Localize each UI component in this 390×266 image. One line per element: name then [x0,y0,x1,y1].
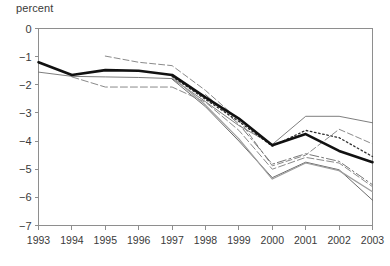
y-tick-label: −2 [19,79,32,91]
x-tick-label: 1999 [227,234,251,246]
y-tick-label: 0 [25,23,31,35]
y-tick-label: −3 [19,107,32,119]
series-line-projection-vintage-c [72,77,373,187]
x-tick-label: 2001 [294,234,318,246]
y-tick-label: −1 [19,51,32,63]
x-tick-label: 1997 [160,234,184,246]
x-tick-label: 1995 [94,234,118,246]
x-tick-label: 1994 [60,234,84,246]
y-tick-label: −6 [19,191,32,203]
chart-canvas: 0−1−2−3−4−5−6−7 199319941995199619971998… [0,0,390,266]
x-tick-label: 2000 [261,234,285,246]
y-tick-label: −7 [19,220,32,232]
x-tick-label: 2003 [361,234,385,246]
x-tick-label: 1998 [194,234,218,246]
line-chart: percent 0−1−2−3−4−5−6−7 1993199419951996… [0,0,390,266]
y-tick-label: −4 [19,135,32,147]
series-line-actual-outturn [39,62,373,162]
y-tick-label: −5 [19,163,32,175]
data-series-group [39,56,373,200]
x-tick-label: 1993 [27,234,51,246]
x-tick-label: 1996 [127,234,151,246]
x-axis-ticks: 1993199419951996199719981999200020012002… [27,226,385,246]
y-axis-ticks: 0−1−2−3−4−5−6−7 [19,23,39,232]
x-tick-label: 2002 [327,234,351,246]
